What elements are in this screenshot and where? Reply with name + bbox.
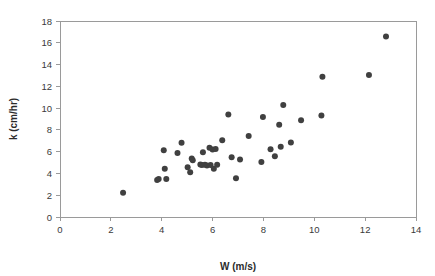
data-point: [120, 190, 126, 196]
data-point: [156, 176, 162, 182]
plot-frame: [60, 21, 416, 217]
x-tick-label: 12: [360, 224, 371, 235]
data-point: [174, 150, 180, 156]
y-tick-label: 12: [41, 81, 52, 92]
y-tick-label: 10: [41, 103, 52, 114]
y-tick-label: 16: [41, 37, 52, 48]
y-axis-title: k (cm/hr): [8, 98, 19, 140]
y-tick-label: 18: [41, 16, 52, 27]
data-point: [278, 144, 284, 150]
data-point: [179, 140, 185, 146]
y-tick-label: 8: [47, 124, 52, 135]
data-point: [225, 111, 231, 117]
x-tick-label: 0: [57, 224, 62, 235]
x-tick-label: 8: [261, 224, 266, 235]
data-point: [161, 147, 167, 153]
y-axis-ticks: [56, 21, 60, 217]
data-point: [190, 157, 196, 163]
x-tick-label: 10: [309, 224, 320, 235]
x-axis-tick-labels: 02468101214: [57, 224, 421, 235]
data-point: [187, 169, 193, 175]
data-point: [163, 176, 169, 182]
x-axis-title: W (m/s): [220, 261, 256, 272]
x-axis-ticks: [60, 217, 416, 221]
data-point: [298, 117, 304, 123]
data-point: [276, 122, 282, 128]
x-tick-label: 6: [210, 224, 215, 235]
data-point: [318, 113, 324, 119]
x-tick-label: 4: [159, 224, 164, 235]
chart-canvas: 02468101214 024681012141618 W (m/s) k (c…: [0, 0, 435, 276]
data-point: [229, 154, 235, 160]
scatter-chart: 02468101214 024681012141618 W (m/s) k (c…: [0, 0, 435, 276]
data-point: [319, 74, 325, 80]
data-point: [383, 33, 389, 39]
data-point: [260, 114, 266, 120]
data-point: [268, 146, 274, 152]
data-point: [233, 175, 239, 181]
data-point: [272, 153, 278, 159]
y-tick-label: 6: [47, 146, 52, 157]
y-tick-label: 14: [41, 59, 52, 70]
data-point: [366, 72, 372, 78]
y-axis-tick-labels: 024681012141618: [41, 16, 52, 223]
data-point: [200, 149, 206, 155]
y-tick-label: 2: [47, 190, 52, 201]
x-tick-label: 2: [108, 224, 113, 235]
data-point: [213, 146, 219, 152]
data-point: [237, 157, 243, 163]
x-tick-label: 14: [411, 224, 422, 235]
data-points-layer: [120, 33, 389, 195]
data-point: [246, 133, 252, 139]
y-tick-label: 0: [47, 212, 52, 223]
data-point: [219, 137, 225, 143]
y-tick-label: 4: [47, 168, 52, 179]
data-point: [258, 159, 264, 165]
data-point: [288, 139, 294, 145]
data-point: [214, 162, 220, 168]
data-point: [162, 166, 168, 172]
data-point: [280, 102, 286, 108]
